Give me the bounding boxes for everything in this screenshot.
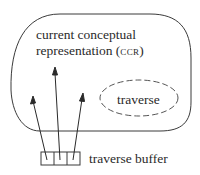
- traverse-label: traverse: [117, 92, 160, 108]
- ccr-label-line1: current conceptual: [36, 27, 136, 43]
- ccr-label-main: representation (: [36, 43, 120, 58]
- arrowhead-icon: [31, 96, 36, 104]
- ccr-label-close: ): [139, 43, 144, 58]
- arrowhead-icon: [80, 93, 85, 102]
- arrowhead-icon: [53, 67, 58, 75]
- ccr-label-line2: representation (ccr): [36, 43, 144, 59]
- traverse-buffer-label: traverse buffer: [89, 151, 168, 167]
- ccr-abbreviation: ccr: [120, 43, 139, 58]
- buffer-arrows: [31, 67, 85, 160]
